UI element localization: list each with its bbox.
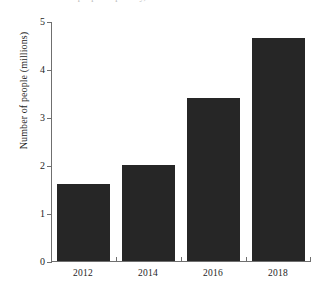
plot-area: 0 1 2 3 4 5 2012 2014 2016 2018 <box>51 22 311 262</box>
y-tick-5 <box>47 22 52 23</box>
x-tick-label-2018: 2018 <box>248 268 308 278</box>
x-tick-label-2012: 2012 <box>53 268 113 278</box>
y-tick-2 <box>47 166 52 167</box>
x-tick-1 <box>116 257 117 262</box>
y-tick-label-3: 3 <box>27 113 45 123</box>
x-tick-3 <box>246 257 247 262</box>
y-tick-label-0: 0 <box>27 257 45 267</box>
bar-2016 <box>187 98 240 261</box>
y-tick-1 <box>47 214 52 215</box>
y-tick-label-5: 5 <box>27 17 45 27</box>
bar-2012 <box>57 184 110 261</box>
y-tick-label-4: 4 <box>27 65 45 75</box>
x-axis-right-cap <box>310 257 311 262</box>
y-tick-0 <box>47 262 52 263</box>
x-tick-label-2014: 2014 <box>118 268 178 278</box>
y-tick-4 <box>47 70 52 71</box>
bar-chart-figure: Number of people (millions) 0 1 2 3 4 5 … <box>0 0 321 285</box>
x-tick-2 <box>181 257 182 262</box>
x-tick-label-2016: 2016 <box>183 268 243 278</box>
y-tick-label-1: 1 <box>27 209 45 219</box>
y-tick-label-2: 2 <box>27 161 45 171</box>
y-axis-title: Number of people (millions) <box>18 6 29 176</box>
bar-2014 <box>122 165 175 261</box>
y-axis-line <box>51 22 52 262</box>
y-tick-3 <box>47 118 52 119</box>
bar-2018 <box>252 38 305 261</box>
